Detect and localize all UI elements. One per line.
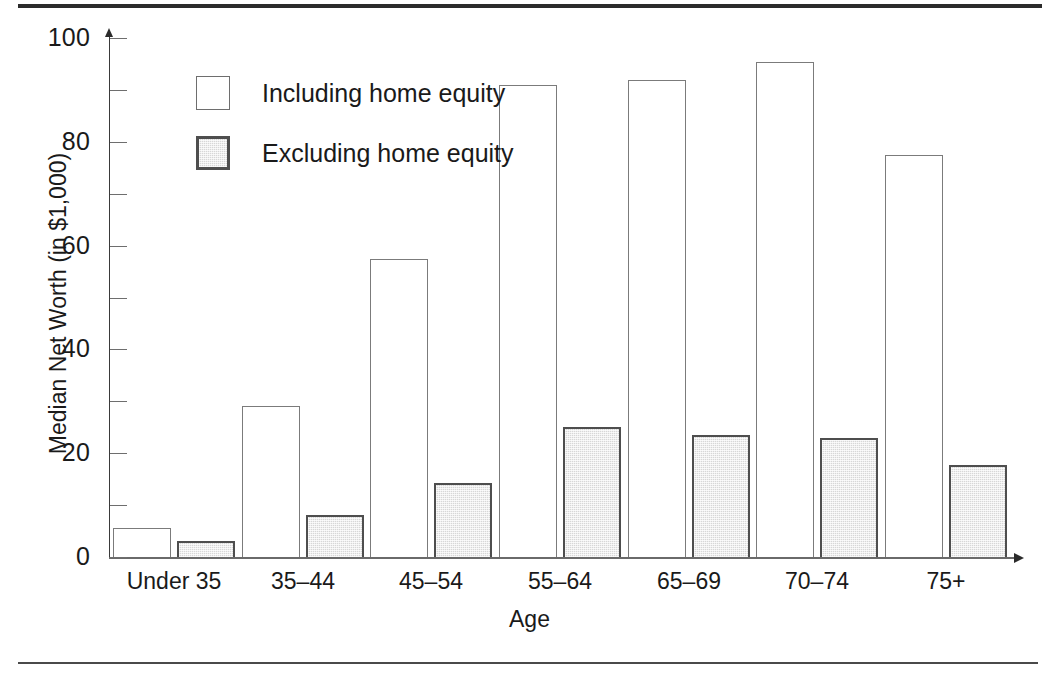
- legend-swatch-including-icon: [196, 76, 230, 110]
- y-tick-label: 0: [14, 544, 90, 569]
- bar-including: [756, 62, 814, 557]
- legend-item-excluding: Excluding home equity: [196, 136, 514, 170]
- y-axis-title: Median Net Worth (in $1,000): [47, 94, 70, 514]
- y-tick-minor: [110, 505, 127, 506]
- bar-excluding: [692, 435, 750, 557]
- x-axis-title: Age: [0, 608, 1059, 631]
- bar-including: [242, 406, 300, 557]
- figure: 020406080100 Under 3535–4445–5455–6465–6…: [0, 0, 1059, 676]
- legend-label-excluding: Excluding home equity: [262, 141, 514, 166]
- y-tick-major: [110, 557, 127, 558]
- y-tick-major: [110, 246, 127, 247]
- bar-excluding: [563, 427, 621, 557]
- bar-including: [370, 259, 428, 557]
- bar-excluding: [820, 438, 878, 557]
- bar-excluding: [177, 541, 235, 557]
- y-axis-arrow: [105, 28, 113, 37]
- bar-including: [113, 528, 171, 557]
- x-axis-arrow: [1014, 553, 1024, 563]
- y-tick-label: 100: [14, 25, 90, 50]
- y-axis-line: [109, 36, 110, 558]
- y-tick-minor: [110, 401, 127, 402]
- bar-excluding: [306, 515, 364, 557]
- x-axis-line: [109, 557, 1017, 559]
- y-tick-minor: [110, 298, 127, 299]
- bar-including: [628, 80, 686, 557]
- y-tick-major: [110, 349, 127, 350]
- y-tick-major: [110, 38, 127, 39]
- legend-item-including: Including home equity: [196, 76, 505, 110]
- y-tick-minor: [110, 90, 127, 91]
- bar-including: [885, 155, 943, 557]
- plot-area: 020406080100 Under 3535–4445–5455–6465–6…: [0, 0, 1059, 676]
- x-tick-label: 75+: [866, 570, 1026, 593]
- y-tick-major: [110, 453, 127, 454]
- bar-excluding: [949, 465, 1007, 557]
- legend-label-including: Including home equity: [262, 81, 505, 106]
- bar-excluding: [434, 483, 492, 557]
- y-tick-major: [110, 142, 127, 143]
- legend-swatch-excluding-icon: [196, 136, 230, 170]
- y-tick-minor: [110, 194, 127, 195]
